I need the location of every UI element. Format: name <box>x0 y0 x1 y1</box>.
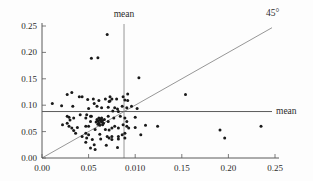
y-tick-label: 0.05 <box>21 127 37 137</box>
data-point <box>125 120 128 123</box>
horizontal-mean-label: mean <box>276 106 297 116</box>
data-point <box>81 135 84 138</box>
data-point <box>116 146 119 149</box>
y-tick-label: 0.10 <box>21 100 37 110</box>
data-point <box>94 128 97 131</box>
data-point <box>121 105 124 108</box>
data-point <box>125 106 128 109</box>
data-point <box>108 129 111 132</box>
data-point <box>84 141 87 144</box>
data-point <box>98 133 101 136</box>
x-tick-label: 0.010 <box>125 163 146 173</box>
data-point <box>94 148 97 151</box>
data-point <box>96 56 99 59</box>
data-point <box>219 129 222 132</box>
data-point <box>89 115 92 118</box>
data-point <box>184 93 187 96</box>
data-point <box>117 126 120 129</box>
data-point <box>100 106 103 109</box>
data-point <box>134 126 137 129</box>
data-point <box>107 106 110 109</box>
data-point <box>60 104 63 107</box>
data-point <box>121 133 124 136</box>
data-point <box>260 125 263 128</box>
data-point <box>90 57 93 60</box>
data-point <box>84 125 87 128</box>
data-point <box>84 116 87 119</box>
data-point <box>110 138 113 141</box>
data-point <box>112 116 115 119</box>
data-point <box>123 132 126 135</box>
data-point <box>79 113 82 116</box>
data-point <box>107 115 110 118</box>
data-point <box>100 116 103 119</box>
x-tick-label: 0.00 <box>34 163 50 173</box>
data-point <box>84 132 87 135</box>
data-point <box>76 126 79 129</box>
data-point <box>81 95 84 98</box>
data-point <box>96 105 99 108</box>
data-point <box>127 126 130 129</box>
data-point <box>85 113 88 116</box>
data-point <box>156 125 159 128</box>
data-point <box>134 116 137 119</box>
data-point <box>123 116 126 119</box>
data-point <box>89 147 92 150</box>
data-point <box>106 33 109 36</box>
data-point <box>116 107 119 110</box>
data-point <box>111 110 114 113</box>
data-point <box>223 136 226 139</box>
data-point <box>126 99 129 102</box>
data-point <box>66 93 69 96</box>
data-point <box>61 123 64 126</box>
data-point <box>105 144 108 147</box>
data-point <box>113 106 116 109</box>
diagonal-45-line <box>42 28 272 158</box>
diagonal-45-label: 45° <box>266 8 280 18</box>
data-point <box>137 76 140 79</box>
data-point <box>104 97 107 100</box>
y-tick-label: 0.15 <box>21 74 37 84</box>
x-tick-label: 0.25 <box>267 163 283 173</box>
data-point <box>101 123 104 126</box>
data-point <box>69 119 72 122</box>
x-tick-label: 0.20 <box>221 163 237 173</box>
data-point <box>72 129 75 132</box>
data-point <box>123 98 126 101</box>
data-point <box>139 133 142 136</box>
data-point <box>122 123 125 126</box>
scatter-plot-figure: 0.000.050.0100.150.200.250.000.050.100.1… <box>0 0 313 181</box>
data-point <box>78 95 81 98</box>
data-point <box>136 107 139 110</box>
data-point <box>98 124 101 127</box>
data-point <box>122 95 125 98</box>
data-point <box>117 135 120 138</box>
y-tick-label: 0.25 <box>21 21 37 31</box>
data-point <box>87 133 90 136</box>
data-points <box>51 33 263 151</box>
data-point <box>92 97 95 100</box>
data-point <box>99 120 102 123</box>
data-point <box>87 125 90 128</box>
data-point <box>115 97 118 100</box>
data-point <box>103 118 106 121</box>
data-point <box>51 102 54 105</box>
data-point <box>95 121 98 124</box>
data-point <box>110 126 113 129</box>
data-point <box>97 116 100 119</box>
data-point <box>110 135 113 138</box>
data-point <box>108 136 111 139</box>
data-point <box>93 143 96 146</box>
scatter-plot: 0.000.050.0100.150.200.250.000.050.100.1… <box>0 0 313 181</box>
data-point <box>70 91 73 94</box>
x-tick-label: 0.15 <box>174 163 190 173</box>
y-tick-label: 0.00 <box>21 153 37 163</box>
data-point <box>86 98 89 101</box>
data-point <box>70 126 73 129</box>
x-tick-label: 0.05 <box>81 163 97 173</box>
data-point <box>87 107 90 110</box>
data-point <box>89 120 92 123</box>
data-point <box>117 138 120 141</box>
data-point <box>68 125 71 128</box>
data-point <box>99 138 102 141</box>
